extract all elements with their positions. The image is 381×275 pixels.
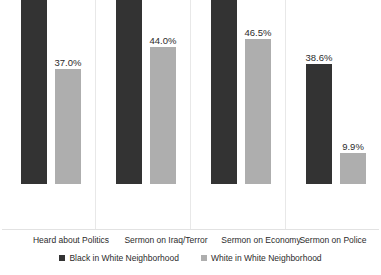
category-separator-2 bbox=[190, 0, 191, 230]
bar-wrap: 65.9% bbox=[116, 0, 142, 184]
legend-label: White in White Neighborhood bbox=[211, 253, 322, 263]
bar[interactable] bbox=[55, 69, 81, 184]
x-tick-label-3: Sermon on Police bbox=[285, 235, 381, 245]
bar-value-label: 46.5% bbox=[236, 27, 280, 38]
bar[interactable] bbox=[150, 47, 176, 184]
x-axis-line bbox=[2, 229, 379, 230]
legend-item-white-in-white-neighborhood[interactable]: White in White Neighborhood bbox=[201, 253, 322, 263]
bar-wrap: 65.9% bbox=[211, 0, 237, 184]
bar-wrap: 63.0% bbox=[21, 0, 47, 184]
bar[interactable] bbox=[245, 39, 271, 184]
bar-wrap: 38.6% bbox=[306, 0, 332, 184]
bar[interactable] bbox=[211, 0, 237, 184]
bar-wrap: 9.9% bbox=[340, 0, 366, 184]
bar[interactable] bbox=[21, 0, 47, 184]
chart-legend: Black in White Neighborhood White in Whi… bbox=[0, 253, 381, 263]
bar-value-label: 37.0% bbox=[46, 57, 90, 68]
legend-swatch-icon bbox=[59, 255, 65, 261]
legend-swatch-icon bbox=[201, 255, 207, 261]
bar[interactable] bbox=[116, 0, 142, 184]
bar[interactable] bbox=[340, 153, 366, 184]
legend-label: Black in White Neighborhood bbox=[69, 253, 179, 263]
category-separator-1 bbox=[95, 0, 96, 230]
plot-area: 63.0% 37.0% 65.9% 44.0% 65.9% bbox=[0, 0, 381, 230]
bar-value-label: 9.9% bbox=[331, 141, 375, 152]
category-separator-3 bbox=[285, 0, 286, 230]
bar-value-label: 38.6% bbox=[297, 52, 341, 63]
bar-chart: 63.0% 37.0% 65.9% 44.0% 65.9% bbox=[0, 0, 381, 275]
bar-wrap: 44.0% bbox=[150, 0, 176, 184]
bar-value-label: 44.0% bbox=[141, 35, 185, 46]
bar-wrap: 37.0% bbox=[55, 0, 81, 184]
legend-item-black-in-white-neighborhood[interactable]: Black in White Neighborhood bbox=[59, 253, 179, 263]
bar-wrap: 46.5% bbox=[245, 0, 271, 184]
bar[interactable] bbox=[306, 64, 332, 184]
